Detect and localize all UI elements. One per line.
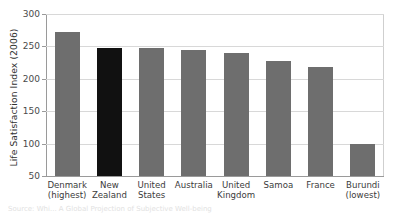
plot-area: [46, 14, 384, 176]
x-label-united-states: UnitedStates: [131, 180, 173, 201]
x-label-denmark-highest: Denmark(highest): [46, 180, 88, 201]
bar-united-states: [139, 48, 164, 176]
source-caption: Source: Whi... A Global Projection of Su…: [8, 205, 308, 214]
life-satisfaction-bar-chart: Life Satisfaction Index (2006) 300250200…: [0, 0, 402, 214]
gridline-50: [46, 176, 384, 177]
bar-series: [46, 14, 384, 176]
bar-burundi-lowest: [350, 144, 375, 176]
x-label-samoa: Samoa: [257, 180, 299, 190]
y-tick-label-100: 100: [0, 139, 40, 149]
y-tick-label-250: 250: [0, 41, 40, 51]
bar-france: [308, 67, 333, 177]
x-label-australia: Australia: [173, 180, 215, 190]
x-label-france: France: [300, 180, 342, 190]
bar-samoa: [266, 61, 291, 176]
bar-united-kingdom: [224, 53, 249, 176]
bar-australia: [181, 50, 206, 176]
x-label-burundi-lowest: Burundi(lowest): [342, 180, 384, 201]
bar-new-zealand: [97, 48, 122, 176]
y-tick-label-300: 300: [0, 9, 40, 19]
y-tick-label-200: 200: [0, 74, 40, 84]
y-tick-label-150: 150: [0, 106, 40, 116]
x-axis-category-labels: Denmark(highest)NewZealandUnitedStatesAu…: [46, 180, 384, 206]
bar-denmark-highest: [55, 32, 80, 176]
y-tick-label-50: 50: [0, 171, 40, 181]
x-label-new-zealand: NewZealand: [88, 180, 130, 201]
x-label-united-kingdom: UnitedKingdom: [215, 180, 257, 201]
